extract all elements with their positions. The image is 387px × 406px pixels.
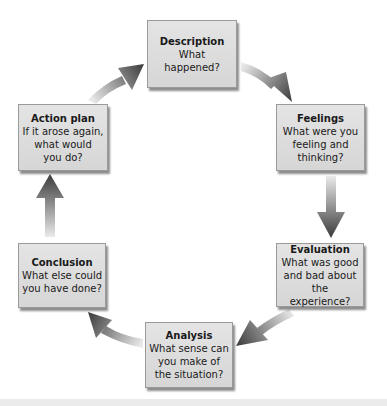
stage-title: Analysis: [166, 329, 213, 342]
stage-title: Description: [160, 35, 225, 48]
diagram-canvas: Description What happened? Feelings What…: [0, 0, 387, 406]
stage-title: Evaluation: [290, 243, 350, 256]
arrow-conclusion-to-action-plan: [36, 174, 64, 237]
bottom-strip: [0, 399, 387, 406]
stage-evaluation: Evaluation What was good and bad about t…: [276, 243, 364, 307]
arrow-description-to-feelings: [241, 62, 292, 102]
stage-question: What sense can you make of the situation…: [149, 342, 229, 381]
stage-question: What was good and bad about the experien…: [280, 256, 360, 308]
stage-feelings: Feelings What were you feeling and think…: [276, 104, 365, 171]
stage-analysis: Analysis What sense can you make of the …: [145, 322, 233, 388]
stage-title: Feelings: [297, 112, 344, 125]
stage-question: What were you feeling and thinking?: [283, 125, 358, 164]
stage-question: If it arose again, what would you do?: [22, 125, 103, 164]
stage-action-plan: Action plan If it arose again, what woul…: [18, 104, 108, 171]
arrow-action-plan-to-description: [88, 64, 144, 104]
stage-title: Action plan: [31, 112, 95, 125]
arrow-feelings-to-evaluation: [317, 176, 345, 238]
arrow-analysis-to-conclusion: [88, 312, 143, 348]
stage-description: Description What happened?: [147, 20, 237, 88]
stage-question: What else could you have done?: [22, 269, 102, 295]
stage-question: What happened?: [151, 48, 233, 74]
stage-conclusion: Conclusion What else could you have done…: [18, 243, 106, 308]
stage-title: Conclusion: [31, 256, 92, 269]
arrow-evaluation-to-analysis: [236, 309, 294, 346]
